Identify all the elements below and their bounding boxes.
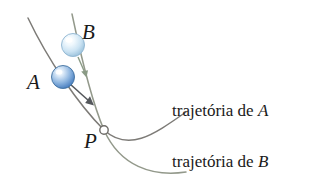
trajectory-a-caption: trajetória de A	[172, 102, 268, 119]
sphere-b-label: B	[82, 22, 95, 43]
sphere-a-label: A	[27, 72, 40, 93]
point-p-label: P	[84, 131, 97, 152]
sphere-a-highlight	[56, 69, 63, 74]
figure-canvas	[0, 0, 323, 187]
trajectory-b-caption: trajetória de B	[172, 153, 268, 170]
trajectory-a-caption-variable: A	[258, 101, 268, 120]
trajectory-b-caption-variable: B	[258, 152, 268, 171]
sphere-a	[52, 66, 75, 89]
sphere-b-highlight	[65, 37, 72, 43]
trajectory-b-caption-prefix: trajetória de	[172, 152, 258, 171]
trajectory-a-caption-prefix: trajetória de	[172, 101, 258, 120]
physics-figure: A B P trajetória de A trajetória de B	[0, 0, 323, 187]
point-p-marker	[100, 126, 108, 134]
